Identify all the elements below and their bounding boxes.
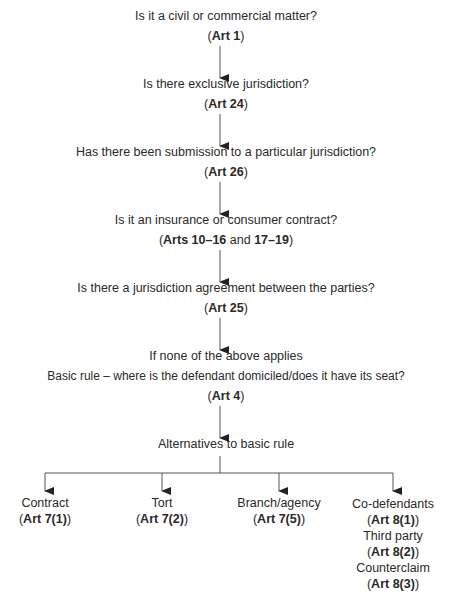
branch-co-defendants: Co-defendants (Art 8(1)) Third party (Ar… [333, 496, 452, 592]
node-exclusive-jurisdiction: Is there exclusive jurisdiction? (Art 24… [0, 74, 452, 114]
node-alternatives: Alternatives to basic rule [0, 434, 452, 454]
node-question: Basic rule – where is the defendant domi… [0, 366, 452, 386]
node-question: Is it a civil or commercial matter? [0, 6, 452, 26]
alternatives-heading: Alternatives to basic rule [0, 434, 452, 454]
branch-contract: Contract (Art 7(1)) [0, 495, 105, 527]
branch-label: Tort [102, 495, 222, 511]
node-article-ref: (Arts 10–16 and 17–19) [0, 230, 452, 250]
node-preamble: If none of the above applies [0, 346, 452, 366]
node-question: Is there a jurisdiction agreement betwee… [0, 278, 452, 298]
branch-article-ref: (Art 7(2)) [102, 511, 222, 527]
branch-article-ref: (Art 7(1)) [0, 511, 105, 527]
branch-article-ref: (Art 7(5)) [219, 511, 339, 527]
branch-label: Third party [333, 528, 452, 544]
branch-label: Co-defendants [333, 496, 452, 512]
node-insurance-consumer: Is it an insurance or consumer contract?… [0, 210, 452, 250]
node-basic-rule: If none of the above applies Basic rule … [0, 346, 452, 406]
node-question: Has there been submission to a particula… [0, 142, 452, 162]
node-article-ref: (Art 24) [0, 94, 452, 114]
branch-label: Contract [0, 495, 105, 511]
node-submission: Has there been submission to a particula… [0, 142, 452, 182]
branch-branch-agency: Branch/agency (Art 7(5)) [219, 495, 339, 527]
branch-article-ref: (Art 8(3)) [333, 576, 452, 592]
node-question: Is it an insurance or consumer contract? [0, 210, 452, 230]
node-question: Is there exclusive jurisdiction? [0, 74, 452, 94]
branch-article-ref: (Art 8(1)) [333, 512, 452, 528]
branch-article-ref: (Art 8(2)) [333, 544, 452, 560]
branch-label: Branch/agency [219, 495, 339, 511]
node-article-ref: (Art 26) [0, 162, 452, 182]
branch-tort: Tort (Art 7(2)) [102, 495, 222, 527]
node-article-ref: (Art 25) [0, 298, 452, 318]
branch-label: Counterclaim [333, 560, 452, 576]
node-civil-commercial: Is it a civil or commercial matter? (Art… [0, 6, 452, 46]
node-jurisdiction-agreement: Is there a jurisdiction agreement betwee… [0, 278, 452, 318]
node-article-ref: (Art 4) [0, 386, 452, 406]
node-article-ref: (Art 1) [0, 26, 452, 46]
